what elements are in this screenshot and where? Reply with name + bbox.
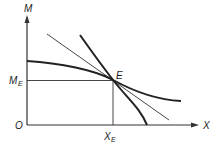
m-e-label: M E (9, 75, 23, 87)
svg-text:X: X (103, 131, 111, 142)
guide-lines (27, 81, 113, 126)
diagram-canvas: M X O E M E X E (0, 0, 221, 146)
point-e-label: E (116, 70, 123, 81)
y-axis-arrow-icon (25, 15, 30, 23)
steeper-curve (80, 35, 147, 125)
origin-label: O (15, 120, 23, 131)
svg-text:E: E (18, 80, 23, 87)
x-e-label: X E (103, 131, 116, 143)
svg-text:M: M (9, 75, 18, 86)
axes (25, 15, 200, 128)
svg-text:E: E (111, 136, 116, 143)
x-axis-label: X (202, 120, 210, 131)
x-axis-arrow-icon (191, 123, 199, 128)
y-axis-label: M (24, 3, 33, 14)
